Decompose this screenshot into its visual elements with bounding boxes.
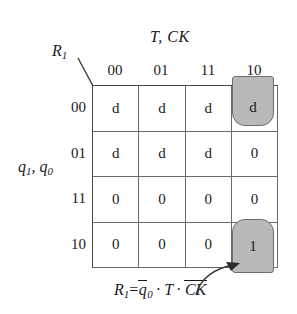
- column-header-2: 11: [185, 62, 231, 79]
- corner-variable-label: R1: [52, 42, 67, 61]
- corner-divider-line: [78, 58, 93, 86]
- cell-r2c1[interactable]: 0: [139, 177, 185, 223]
- row-header-0: 00: [52, 99, 86, 116]
- equation-term3: CK: [184, 280, 206, 298]
- corner-label-subscript: 1: [62, 49, 68, 61]
- equation-term1-subscript: 0: [147, 288, 153, 300]
- cell-r3c0[interactable]: 0: [93, 223, 139, 269]
- column-header-1: 01: [138, 62, 184, 79]
- cell-r2c2[interactable]: 0: [186, 177, 232, 223]
- cell-r0c1[interactable]: d: [139, 86, 185, 132]
- row-header-3: 10: [52, 236, 86, 253]
- cell-r0c0[interactable]: d: [93, 86, 139, 132]
- cell-r3c1[interactable]: 0: [139, 223, 185, 269]
- cell-r2c0[interactable]: 0: [93, 177, 139, 223]
- cell-r2c3[interactable]: 0: [232, 177, 278, 223]
- cell-r1c2[interactable]: d: [186, 132, 232, 178]
- equation-label: R1=q0·T·CK: [114, 281, 207, 300]
- cell-value-r3c3: 1: [232, 238, 274, 255]
- row-header-2: 11: [52, 190, 86, 207]
- equation-lhs: R: [114, 281, 124, 298]
- cell-r0c2[interactable]: d: [186, 86, 232, 132]
- column-axis-label: T, CK: [150, 28, 190, 46]
- row-header-1: 01: [52, 145, 86, 162]
- row-axis-base-2: , q: [32, 158, 48, 175]
- equation-operator-2: ·: [173, 281, 184, 298]
- equation-term2: T: [164, 281, 173, 298]
- cell-r1c3[interactable]: 0: [232, 132, 278, 178]
- equation-equals: =: [129, 281, 138, 298]
- row-axis-sub-2: 0: [48, 165, 54, 177]
- row-axis-base-1: q: [18, 158, 26, 175]
- column-header-0: 00: [92, 62, 138, 79]
- equation-operator-1: ·: [153, 281, 164, 298]
- karnaugh-map-diagram: T, CK R1 q1, q0 00 01 11 10 00 01 11 10 …: [0, 0, 297, 314]
- cell-r1c1[interactable]: d: [139, 132, 185, 178]
- corner-label-base: R: [52, 42, 62, 59]
- row-axis-label: q1, q0: [18, 158, 53, 177]
- equation-term1-base: q: [138, 280, 147, 298]
- cell-value-r0c3: d: [232, 99, 274, 116]
- cell-r3c2[interactable]: 0: [186, 223, 232, 269]
- cell-r1c0[interactable]: d: [93, 132, 139, 178]
